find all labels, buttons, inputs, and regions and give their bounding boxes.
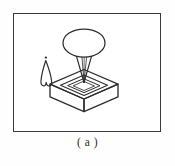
canopy-ellipse-icon [63,29,105,57]
figure-caption: ( a ) [0,136,175,148]
flame-figure-icon [41,56,52,85]
illustration-frame [13,13,161,132]
flame-dot-icon [45,56,47,58]
figure-panel: ( a ) [0,0,175,166]
line-drawing [14,14,162,133]
